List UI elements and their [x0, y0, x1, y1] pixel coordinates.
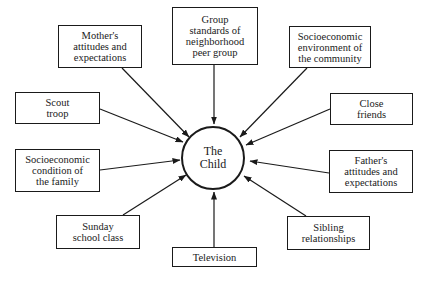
- arrow-mother-to-child: [122, 68, 189, 137]
- arrow-sunday-school-to-child: [123, 175, 186, 215]
- arrow-close-friends-to-child: [246, 109, 330, 145]
- arrow-scout-to-child: [100, 109, 183, 142]
- node-sibling-relationships: Sibling relationships: [287, 216, 370, 250]
- node-mother-attitudes: Mother's attitudes and expectations: [58, 25, 142, 68]
- arrow-father-to-child: [250, 161, 329, 173]
- node-scout-troop: Scout troop: [15, 92, 100, 124]
- influences-diagram: The Child Mother's attitudes and expecta…: [0, 0, 423, 282]
- node-television: Television: [172, 247, 257, 267]
- node-group-standards: Group standards of neighborhood peer gro…: [172, 7, 258, 65]
- center-node-label: The Child: [182, 127, 244, 189]
- node-community-environment: Socioeconomic environment of the communi…: [289, 26, 371, 68]
- arrow-family-condition-to-child: [100, 160, 180, 170]
- node-close-friends: Close friends: [330, 93, 413, 125]
- arrow-community-to-child: [240, 68, 307, 137]
- arrow-sibling-to-child: [244, 176, 306, 216]
- node-father-attitudes: Father's attitudes and expectations: [329, 150, 413, 193]
- node-sunday-school: Sunday school class: [56, 215, 140, 249]
- node-family-condition: Socioeconomic condition of the family: [15, 149, 100, 192]
